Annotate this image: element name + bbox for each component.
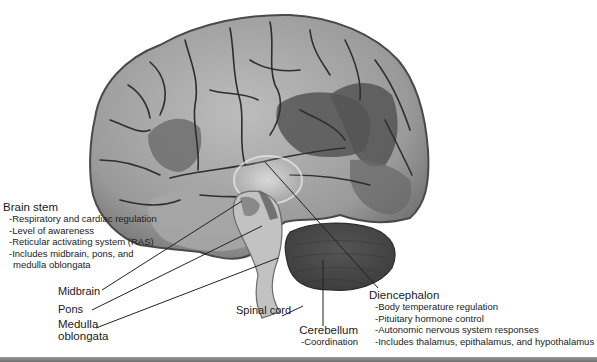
spinal-cord-label: Spinal cord [236,304,291,316]
medulla-oblongata-label: Medulla oblongata [58,318,109,342]
diencephalon-label: Diencephalon -Body temperature regulatio… [369,289,594,347]
cerebellum-label: Cerebellum -Coordination [295,324,358,348]
medulla-line-1: Medulla [58,318,109,330]
brain-stem-item: -Respiratory and cardiac regulation [3,213,157,225]
brain-stem-title: Brain stem [3,201,157,213]
brain-anatomy-figure: Brain stem -Respiratory and cardiac regu… [0,0,597,362]
midbrain-label: Midbrain [58,285,100,297]
bottom-divider [0,357,597,362]
diencephalon-item: -Autonomic nervous system responses [369,324,594,336]
brain-stem-item: -Includes midbrain, pons, and [3,248,157,260]
brain-stem-label: Brain stem -Respiratory and cardiac regu… [3,201,157,271]
diencephalon-item: -Body temperature regulation [369,301,594,313]
cerebellum [285,223,395,290]
diencephalon-item: -Includes thalamus, epithalamus, and hyp… [369,336,594,348]
cerebellum-item: -Coordination [301,336,358,348]
pons-label: Pons [58,303,83,315]
brain-stem-item: medulla oblongata [3,259,157,271]
medulla-line-2: oblongata [58,330,109,342]
diencephalon-item: -Pituitary hormone control [369,313,594,325]
brain-stem-item: -Reticular activating system (RAS) [3,236,157,248]
brain-stem-item: -Level of awareness [3,225,157,237]
diencephalon-title: Diencephalon [369,289,594,301]
cerebellum-title: Cerebellum [295,324,358,336]
